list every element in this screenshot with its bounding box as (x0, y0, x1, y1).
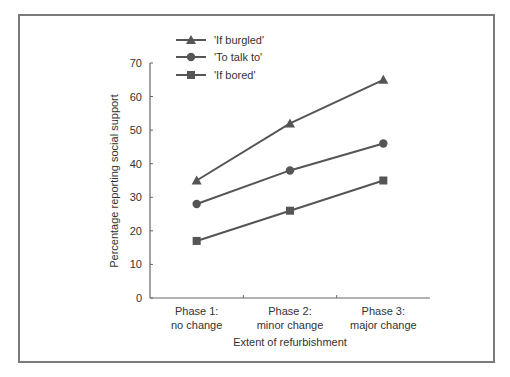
legend-label: 'To talk to' (214, 51, 262, 63)
y-tick-label: 60 (130, 91, 142, 103)
series-circle (192, 139, 387, 208)
x-axis-label: Extent of refurbishment (233, 336, 347, 348)
square-marker (286, 207, 294, 215)
circle-marker (286, 166, 294, 174)
x-tick-label: Phase 2: (268, 305, 311, 317)
y-tick-label: 70 (130, 57, 142, 69)
x-axis-ticks: Phase 1:no changePhase 2:minor changePha… (171, 295, 417, 331)
legend-item: 'If bored' (176, 69, 256, 81)
x-tick-label: Phase 1: (175, 305, 218, 317)
line-chart: 010203040506070 Phase 1:no changePhase 2… (0, 0, 510, 377)
y-tick-label: 10 (130, 258, 142, 270)
square-marker (379, 177, 387, 185)
y-tick-label: 0 (136, 292, 142, 304)
series-line (197, 80, 384, 181)
circle-icon (187, 53, 195, 61)
x-tick-label: major change (350, 319, 417, 331)
triangle-marker (285, 118, 295, 127)
triangle-marker (378, 75, 388, 84)
circle-marker (379, 139, 387, 147)
y-tick-label: 40 (130, 158, 142, 170)
y-tick-label: 30 (130, 191, 142, 203)
legend-label: 'If burgled' (214, 34, 264, 46)
square-marker (193, 237, 201, 245)
triangle-marker (192, 176, 202, 185)
y-tick-label: 20 (130, 225, 142, 237)
legend-item: 'To talk to' (176, 51, 262, 63)
series-group (192, 75, 389, 245)
legend: 'If burgled''To talk to''If bored' (176, 34, 264, 81)
series-square (193, 177, 388, 245)
y-axis-label: Percentage reporting social support (108, 94, 120, 268)
square-icon (187, 71, 195, 79)
x-tick-label: no change (171, 319, 222, 331)
y-tick-label: 50 (130, 124, 142, 136)
circle-marker (192, 200, 200, 208)
x-tick-label: Phase 3: (362, 305, 405, 317)
x-tick-label: minor change (257, 319, 324, 331)
legend-item: 'If burgled' (176, 34, 264, 46)
legend-label: 'If bored' (214, 69, 256, 81)
axes (150, 63, 430, 298)
